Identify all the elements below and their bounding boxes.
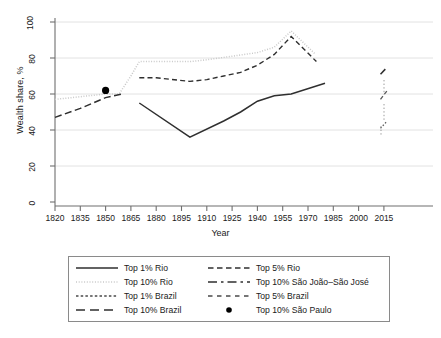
long-dash-line-key (75, 304, 119, 316)
dash-dot-line-key (207, 276, 251, 288)
ytick-label-80: 80 (27, 46, 37, 72)
legend-item-top10-brazil[interactable]: Top 10% Brazil (75, 303, 207, 317)
y-axis-ticks (50, 22, 55, 202)
gridlines (55, 22, 433, 166)
x-axis-ticks (55, 206, 384, 211)
y-axis-title: Wealth share, % (15, 40, 25, 160)
fine-dash-dot-line-key (75, 290, 119, 302)
legend-item-top5-rio[interactable]: Top 5% Rio (207, 261, 383, 275)
dash-dash-line-key (207, 290, 251, 302)
legend-label-top10-rio: Top 10% Rio (124, 276, 173, 288)
marker-top10-sao-paulo (102, 87, 109, 94)
ytick-label-100: 100 (25, 10, 35, 36)
series-top1-brazil-2015 (381, 121, 388, 128)
legend-item-top10-sao-joao-sao-jose[interactable]: Top 10% São João–São José (207, 275, 383, 289)
ytick-label-20: 20 (27, 154, 37, 180)
legend-item-top1-brazil[interactable]: Top 1% Brazil (75, 289, 207, 303)
ytick-label-60: 60 (27, 82, 37, 108)
legend-item-top10-sao-paulo[interactable]: Top 10% São Paulo (207, 303, 383, 317)
ytick-label-40: 40 (27, 118, 37, 144)
series-top5-rio (139, 36, 316, 81)
dashed-line-key (207, 262, 251, 274)
chart-legend: Top 1% Rio Top 5% Rio Top 10% Rio Top 1 (68, 256, 390, 322)
dotted-line-key (75, 276, 119, 288)
chart-plot-area: 0 20 40 60 80 100 1820 1835 1850 1865 18… (0, 0, 441, 250)
legend-label-top5-rio: Top 5% Rio (256, 262, 300, 274)
xtick-label-2015: 2015 (369, 213, 399, 223)
legend-label-top10-sao-paulo: Top 10% São Paulo (256, 304, 332, 316)
filled-circle-marker-key (207, 304, 251, 316)
legend-label-top1-brazil: Top 1% Brazil (124, 290, 177, 302)
legend-label-top1-rio: Top 1% Rio (124, 262, 168, 274)
series-top10-rio (55, 31, 316, 99)
legend-item-top5-brazil[interactable]: Top 5% Brazil (207, 289, 383, 303)
ytick-label-0: 0 (27, 190, 37, 216)
solid-line-key (75, 262, 119, 274)
x-axis-title: Year (0, 228, 441, 238)
series-top10-brazil-2015 (381, 67, 388, 74)
legend-item-top10-rio[interactable]: Top 10% Rio (75, 275, 207, 289)
legend-label-top5-brazil: Top 5% Brazil (256, 290, 309, 302)
wealth-share-figure: 0 20 40 60 80 100 1820 1835 1850 1865 18… (0, 0, 441, 338)
series-top10-brazil-early (55, 94, 123, 117)
axis-lines (55, 18, 433, 206)
legend-item-top1-rio[interactable]: Top 1% Rio (75, 261, 207, 275)
legend-label-top10-sao-joao-sao-jose: Top 10% São João–São José (256, 276, 369, 288)
legend-label-top10-brazil: Top 10% Brazil (124, 304, 181, 316)
series-top1-rio (139, 83, 325, 137)
